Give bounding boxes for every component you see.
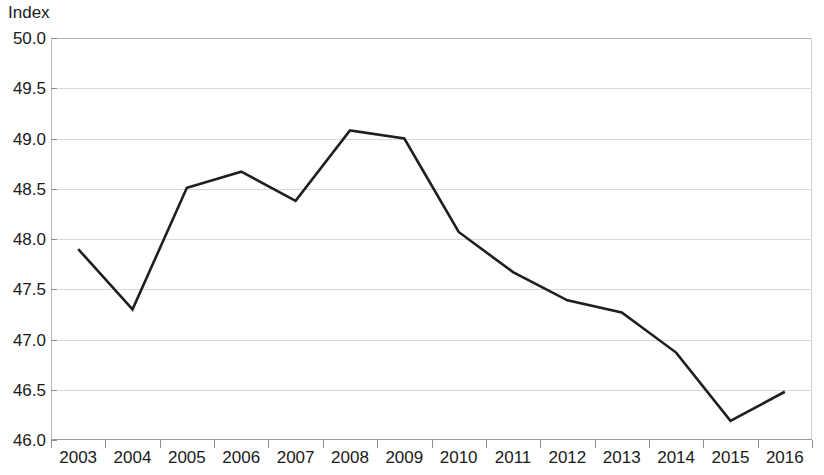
data-series-line <box>78 130 785 420</box>
series-line-layer <box>0 0 824 475</box>
line-chart: Index 50.049.549.048.548.047.547.046.546… <box>0 0 824 475</box>
